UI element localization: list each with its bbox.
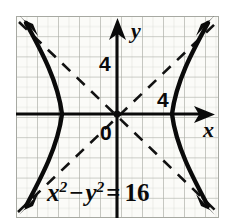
equation-y: y bbox=[86, 179, 97, 206]
x-axis-label: x bbox=[203, 119, 214, 141]
equation-label: x2−y2=16 bbox=[47, 178, 152, 207]
equation-equals: = bbox=[104, 179, 122, 206]
equation-x: x bbox=[47, 179, 60, 206]
equation-rhs: 16 bbox=[123, 179, 152, 206]
equation-minus: − bbox=[67, 179, 85, 206]
y-axis-tick-label-4: 4 bbox=[99, 53, 111, 74]
origin-label-zero: 0 bbox=[100, 122, 112, 143]
y-axis-label: y bbox=[131, 20, 141, 42]
x-axis-tick-label-4: 4 bbox=[157, 89, 169, 110]
hyperbola-figure: y x 4 4 0 x2−y2=16 bbox=[0, 0, 229, 218]
